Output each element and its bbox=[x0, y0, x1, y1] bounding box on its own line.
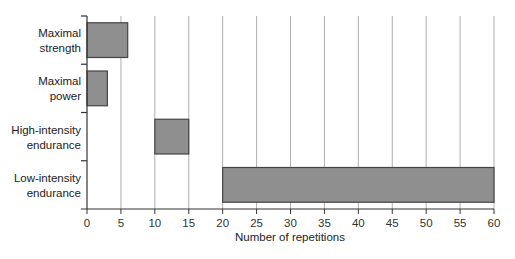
x-tick-label: 35 bbox=[318, 217, 331, 229]
repetition-range-chart: MaximalstrengthMaximalpowerHigh-intensit… bbox=[0, 0, 515, 259]
x-tick-label: 30 bbox=[284, 217, 297, 229]
x-tick-label: 25 bbox=[250, 217, 263, 229]
x-tick-label: 10 bbox=[148, 217, 161, 229]
x-tick-labels: 051015202530354045505560 bbox=[84, 217, 501, 229]
range-bar bbox=[87, 23, 128, 58]
range-bar bbox=[87, 71, 107, 106]
category-label: Maximalstrength bbox=[38, 27, 81, 54]
x-tick-label: 60 bbox=[488, 217, 501, 229]
x-tick-label: 0 bbox=[84, 217, 90, 229]
category-label: High-intensityendurance bbox=[11, 124, 81, 151]
category-label: Low-intensityendurance bbox=[14, 172, 81, 199]
range-bar bbox=[223, 168, 494, 203]
x-tick-label: 5 bbox=[118, 217, 124, 229]
x-axis-title: Number of repetitions bbox=[235, 231, 345, 243]
x-tick-label: 55 bbox=[454, 217, 467, 229]
x-tick-label: 50 bbox=[420, 217, 433, 229]
category-label: Maximalpower bbox=[38, 75, 81, 102]
x-tick-label: 45 bbox=[386, 217, 399, 229]
x-tick-label: 20 bbox=[216, 217, 229, 229]
range-bar bbox=[155, 119, 189, 154]
x-tick-label: 15 bbox=[182, 217, 195, 229]
x-tick-label: 40 bbox=[352, 217, 365, 229]
category-labels: MaximalstrengthMaximalpowerHigh-intensit… bbox=[11, 27, 81, 199]
